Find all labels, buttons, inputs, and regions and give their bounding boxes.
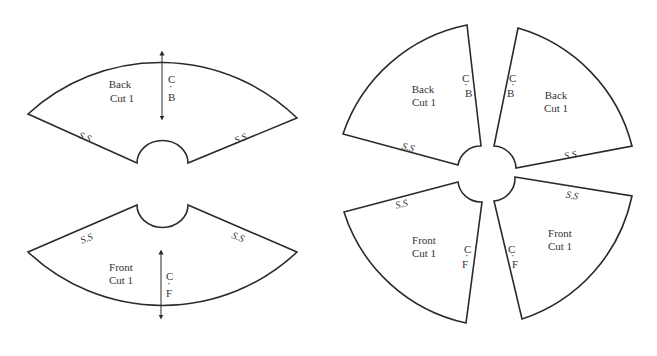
front-piece: Front Cut 1 C · F S.S S.S <box>28 205 297 317</box>
back-left-piece: Back Cut 1 C · B S.S <box>343 25 481 165</box>
front-cut-label: Cut 1 <box>109 274 133 286</box>
front-name-label: Front <box>412 234 436 246</box>
back-name-label: Back <box>109 78 132 90</box>
back-cut-label: Cut 1 <box>412 96 436 108</box>
back-cut-label: Cut 1 <box>110 92 134 104</box>
center-front-label-bottom: F <box>462 258 468 270</box>
four-piece-layout: Back Cut 1 C · B S.S Back Cut 1 C · B S.… <box>343 25 632 323</box>
front-name-label: Front <box>548 227 572 239</box>
two-piece-layout: Back Cut 1 C · B S.S S.S Front Cut 1 C ·… <box>28 53 297 317</box>
center-back-label-bottom: B <box>507 87 514 99</box>
center-front-label-bottom: F <box>166 287 172 299</box>
back-name-label: Back <box>412 83 435 95</box>
center-back-label-bottom: B <box>168 91 175 103</box>
back-cut-label: Cut 1 <box>544 102 568 114</box>
center-front-label-bottom: F <box>512 258 518 270</box>
front-name-label: Front <box>109 261 133 273</box>
center-back-label-bottom: B <box>465 87 472 99</box>
back-name-label: Back <box>545 89 568 101</box>
side-seam-label: S.S <box>563 148 577 161</box>
back-piece: Back Cut 1 C · B S.S S.S <box>28 53 297 163</box>
front-piece-outline <box>28 205 297 305</box>
front-right-piece: Front Cut 1 C · F S.S <box>494 177 632 319</box>
side-seam-label: S.S <box>565 189 579 202</box>
front-left-piece: Front Cut 1 C · F S.S <box>344 182 482 323</box>
back-right-piece: Back Cut 1 C · B S.S <box>494 28 632 168</box>
front-cut-label: Cut 1 <box>548 240 572 252</box>
front-cut-label: Cut 1 <box>412 247 436 259</box>
pattern-diagram: Back Cut 1 C · B S.S S.S Front Cut 1 C ·… <box>0 0 657 356</box>
